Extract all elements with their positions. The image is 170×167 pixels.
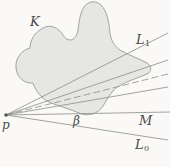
- label-beta-angle: β: [73, 115, 80, 127]
- label-p-point: p: [2, 119, 10, 131]
- geometry-figure: K L1 M L0 β p: [0, 0, 170, 167]
- label-l1: L1: [136, 33, 150, 48]
- label-l0: L0: [135, 138, 149, 153]
- label-m: M: [139, 114, 152, 127]
- apex-point-p: [4, 113, 8, 117]
- label-l1-base: L: [136, 32, 145, 47]
- label-k: K: [30, 15, 40, 28]
- label-l1-subscript: 1: [145, 39, 150, 48]
- label-l0-subscript: 0: [144, 144, 149, 153]
- label-l0-base: L: [135, 137, 144, 152]
